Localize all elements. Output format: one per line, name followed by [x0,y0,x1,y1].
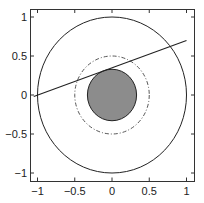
y-tick-label: 0 [21,89,27,101]
x-tick-label: −1 [31,185,44,197]
chart: −1−0.500.51 10.50−0.5−1 [0,0,204,203]
y-tick-label: −1 [14,167,27,179]
x-tick-label: 0.5 [142,185,157,197]
x-tick-label: 1 [183,185,189,197]
y-tick-label: −0.5 [5,128,27,140]
filled-disk [87,69,136,120]
x-tick-label: 0 [109,185,115,197]
y-tick-label: 1 [21,11,27,23]
y-tick-label: 0.5 [12,50,27,62]
x-tick-label: −0.5 [64,185,86,197]
